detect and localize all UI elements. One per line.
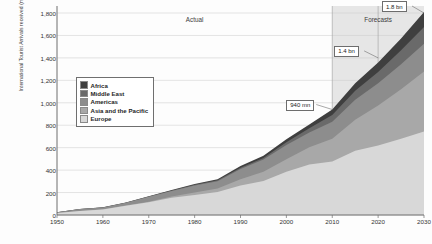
annotation-1-8-bn: 1.8 bn [382, 1, 407, 12]
area-chart-plot [0, 0, 432, 244]
period-label-forecasts: Forecasts [364, 16, 392, 23]
legend-swatch-icon [80, 81, 88, 89]
legend-swatch-icon [80, 107, 88, 115]
legend-swatch-icon [80, 98, 88, 106]
legend-item-americas[interactable]: Americas [80, 98, 148, 106]
annotation-940-mn: 940 mn [286, 100, 314, 111]
legend-label: Middle East [91, 90, 125, 97]
legend-label: Americas [91, 98, 118, 105]
legend-item-middle-east[interactable]: Middle East [80, 89, 148, 97]
legend-swatch-icon [80, 90, 88, 98]
legend-label: Europe [91, 115, 112, 122]
legend-item-asia-and-the-pacific[interactable]: Asia and the Pacific [80, 106, 148, 114]
legend-label: Asia and the Pacific [91, 107, 149, 114]
annotation-1-4-bn: 1.4 bn [334, 46, 359, 57]
legend-label: Africa [91, 82, 108, 89]
period-label-actual: Actual [186, 16, 204, 23]
chart-container: International Tourist Arrivals received … [0, 0, 432, 244]
annotation-leader-line-0 [316, 105, 332, 110]
chart-legend: AfricaMiddle EastAmericasAsia and the Pa… [76, 77, 154, 127]
legend-swatch-icon [80, 115, 88, 123]
legend-item-africa[interactable]: Africa [80, 81, 148, 89]
legend-item-europe[interactable]: Europe [80, 115, 148, 123]
